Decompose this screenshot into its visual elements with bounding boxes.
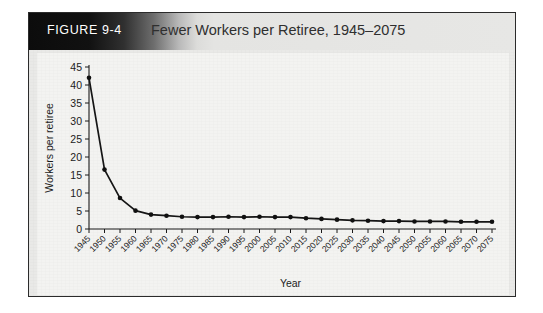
- data-point: [459, 220, 464, 225]
- data-point: [87, 76, 92, 81]
- figure-title: Fewer Workers per Retiree, 1945–2075: [151, 22, 405, 38]
- data-point: [397, 219, 402, 224]
- data-point: [443, 219, 448, 224]
- y-tick-label: 35: [70, 97, 82, 109]
- data-point: [102, 167, 107, 172]
- data-point: [195, 215, 200, 220]
- line-chart: 051015202530354045 194519501955196019651…: [37, 53, 509, 295]
- data-point: [490, 220, 495, 225]
- figure-body: 051015202530354045 194519501955196019651…: [29, 50, 515, 296]
- data-point: [118, 196, 123, 201]
- data-point: [319, 217, 324, 222]
- data-point: [242, 215, 247, 220]
- data-point: [149, 212, 154, 217]
- y-tick-label: 0: [76, 223, 82, 235]
- figure-frame: FIGURE 9-4 Fewer Workers per Retiree, 19…: [28, 12, 516, 297]
- data-point: [133, 208, 138, 213]
- data-point: [366, 218, 371, 223]
- data-point: [350, 218, 355, 223]
- data-point: [335, 217, 340, 222]
- x-axis-title: Year: [280, 277, 302, 289]
- y-tick-label: 30: [70, 115, 82, 127]
- data-point: [381, 219, 386, 224]
- y-tick-label: 25: [70, 133, 82, 145]
- y-tick-label: 5: [76, 205, 82, 217]
- data-point: [474, 220, 479, 225]
- data-point: [304, 216, 309, 221]
- data-point: [180, 214, 185, 219]
- data-point: [257, 214, 262, 219]
- data-point: [288, 215, 293, 220]
- y-tick-label: 10: [70, 187, 82, 199]
- y-tick-label: 40: [70, 79, 82, 91]
- data-point: [211, 215, 216, 220]
- data-point: [226, 214, 231, 219]
- y-axis-title: Workers per retiree: [43, 103, 55, 193]
- data-point: [164, 213, 169, 218]
- figure-number-label: FIGURE 9-4: [47, 23, 122, 37]
- figure-header-band: FIGURE 9-4 Fewer Workers per Retiree, 19…: [29, 13, 515, 50]
- y-tick-label: 45: [70, 61, 82, 73]
- data-point: [273, 215, 278, 220]
- chart-plot-panel: 051015202530354045 194519501955196019651…: [37, 53, 509, 295]
- data-point: [412, 219, 417, 224]
- data-point: [428, 219, 433, 224]
- y-tick-label: 20: [70, 151, 82, 163]
- y-tick-label: 15: [70, 169, 82, 181]
